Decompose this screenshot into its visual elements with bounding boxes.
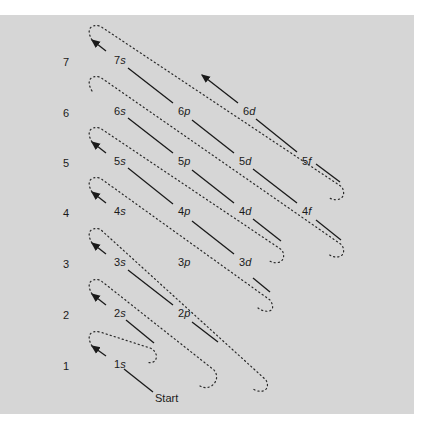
start-label: Start [155,392,178,404]
orbital-5s: 5s [114,155,126,167]
orbital-3s: 3s [114,256,126,268]
orbital-4s: 4s [114,205,126,217]
shell-number-4: 4 [63,207,69,219]
orbital-1s: 1s [114,358,126,370]
orbital-4d: 4d [239,205,251,217]
orbital-3p: 3p [178,256,190,268]
orbital-5d: 5d [239,155,251,167]
shell-number-3: 3 [63,258,69,270]
orbital-7s: 7s [114,54,126,66]
orbital-4p: 4p [178,205,190,217]
orbital-5p: 5p [178,155,190,167]
shell-number-5: 5 [63,157,69,169]
orbital-3d: 3d [239,256,251,268]
orbital-6p: 6p [178,105,190,117]
shell-number-6: 6 [63,107,69,119]
orbital-6s: 6s [114,105,126,117]
orbital-4f: 4f [302,205,311,217]
orbital-2p: 2p [178,307,190,319]
shell-number-1: 1 [63,360,69,372]
shell-number-2: 2 [63,309,69,321]
shell-number-7: 7 [63,56,69,68]
orbital-6d: 6d [243,105,255,117]
orbital-2s: 2s [114,307,126,319]
orbital-5f: 5f [302,155,311,167]
